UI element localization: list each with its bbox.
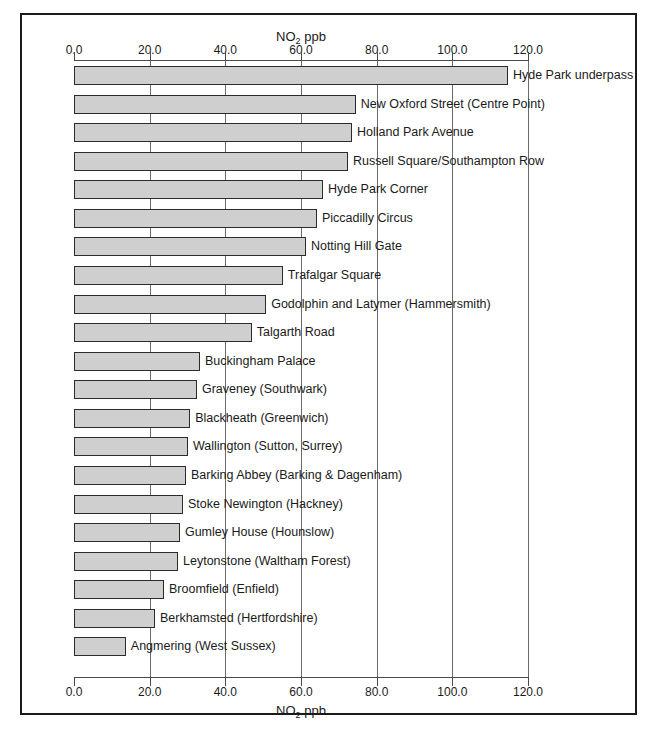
bar [74, 409, 190, 428]
bar-label: Godolphin and Latymer (Hammersmith) [266, 295, 491, 314]
x-tick-mark-bottom [528, 677, 529, 686]
bar [74, 380, 197, 399]
bar-label: Notting Hill Gate [306, 237, 402, 256]
bar [74, 580, 164, 599]
bar [74, 609, 155, 628]
figure-frame: NO2 ppb 0.020.040.060.080.0100.0120.0 Hy… [20, 13, 637, 715]
bar-label: Buckingham Palace [200, 352, 315, 371]
bar-row: Blackheath (Greenwich) [74, 405, 528, 434]
x-tick-mark-bottom [150, 677, 151, 686]
bar-row: Hyde Park underpass [74, 62, 528, 91]
bar-label: Graveney (Southwark) [197, 380, 327, 399]
bar-label: Berkhamsted (Hertfordshire) [155, 609, 318, 628]
bar [74, 295, 266, 314]
x-tick-label-bottom: 100.0 [437, 685, 467, 699]
bar-row: Wallington (Sutton, Surrey) [74, 433, 528, 462]
bar [74, 523, 180, 542]
bar-row: Leytonstone (Waltham Forest) [74, 548, 528, 577]
bar [74, 495, 183, 514]
bar [74, 323, 252, 342]
bar [74, 95, 356, 114]
bar-label: Holland Park Avenue [352, 123, 474, 142]
bar-label: Piccadilly Circus [317, 209, 413, 228]
x-tick-label-bottom: 20.0 [138, 685, 161, 699]
bar-label: Angmering (West Sussex) [126, 637, 276, 656]
bar-row: Graveney (Southwark) [74, 376, 528, 405]
bar-row: Trafalgar Square [74, 262, 528, 291]
bar-row: Godolphin and Latymer (Hammersmith) [74, 291, 528, 320]
bar [74, 123, 352, 142]
bar-row: Stoke Newington (Hackney) [74, 491, 528, 520]
bar-row: Russell Square/Southampton Row [74, 148, 528, 177]
bar-row: New Oxford Street (Centre Point) [74, 91, 528, 120]
bar-row: Hyde Park Corner [74, 176, 528, 205]
bar-row: Broomfield (Enfield) [74, 576, 528, 605]
bar-label: Blackheath (Greenwich) [190, 409, 328, 428]
bar-label: Barking Abbey (Barking & Dagenham) [186, 466, 402, 485]
bar-row: Barking Abbey (Barking & Dagenham) [74, 462, 528, 491]
bar-label: Hyde Park underpass [508, 66, 633, 85]
bar [74, 552, 178, 571]
bar-label: Gumley House (Hounslow) [180, 523, 334, 542]
x-tick-label-bottom: 40.0 [214, 685, 237, 699]
bar-label: New Oxford Street (Centre Point) [356, 95, 545, 114]
bar [74, 266, 283, 285]
bar-row: Berkhamsted (Hertfordshire) [74, 605, 528, 634]
bar-label: Stoke Newington (Hackney) [183, 495, 343, 514]
bar [74, 237, 306, 256]
x-tick-label-bottom: 120.0 [513, 685, 543, 699]
bar-row: Angmering (West Sussex) [74, 633, 528, 662]
x-tick-mark-bottom [74, 677, 75, 686]
x-tick-label-bottom: 80.0 [365, 685, 388, 699]
bar-row: Notting Hill Gate [74, 233, 528, 262]
x-tick-label-bottom: 60.0 [289, 685, 312, 699]
bar-row: Talgarth Road [74, 319, 528, 348]
bar-label: Russell Square/Southampton Row [348, 152, 544, 171]
x-tick-mark-bottom [452, 677, 453, 686]
bar-label: Broomfield (Enfield) [164, 580, 279, 599]
x-tick-mark-bottom [225, 677, 226, 686]
bar-label: Talgarth Road [252, 323, 335, 342]
x-tick-label-bottom: 0.0 [66, 685, 83, 699]
bar-label: Leytonstone (Waltham Forest) [178, 552, 351, 571]
bar [74, 152, 348, 171]
x-tick-mark-bottom [301, 677, 302, 686]
plot-area: NO2 ppb 0.020.040.060.080.0100.0120.0 Hy… [74, 60, 528, 678]
x-tick-mark-bottom [377, 677, 378, 686]
top-axis-title: NO2 ppb [74, 29, 528, 44]
bar [74, 437, 188, 456]
bar [74, 466, 186, 485]
bar-row: Gumley House (Hounslow) [74, 519, 528, 548]
bar-label: Hyde Park Corner [323, 180, 428, 199]
bottom-axis-title: NO2 ppb [74, 703, 528, 718]
x-tick-mark-top [528, 52, 529, 61]
bar-label: Wallington (Sutton, Surrey) [188, 437, 343, 456]
bar-row: Buckingham Palace [74, 348, 528, 377]
bar [74, 352, 200, 371]
bar-row: Holland Park Avenue [74, 119, 528, 148]
bar [74, 209, 317, 228]
bars-layer: Hyde Park underpassNew Oxford Street (Ce… [74, 60, 528, 678]
bar-label: Trafalgar Square [283, 266, 381, 285]
bar-row: Piccadilly Circus [74, 205, 528, 234]
bar [74, 180, 323, 199]
bar [74, 637, 126, 656]
bar [74, 66, 508, 85]
